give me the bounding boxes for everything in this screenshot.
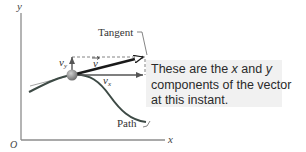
callout-line-3: at this instant. [151,93,282,109]
velocity-vector [72,57,143,75]
particle [67,70,78,81]
callout-line-1: These are the x and y [151,62,282,78]
callout-line-2: components of the vector [151,78,282,94]
tangent-leader [137,32,147,55]
x-axis-label: x [167,133,173,145]
vy-label: vy [59,56,68,70]
path-label: Path [117,117,137,129]
origin-label: O [10,139,17,150]
v-label: v [93,57,98,69]
callout-box: These are the x and y components of the … [146,60,282,107]
vx-label: vx [103,74,112,88]
tangent-label: Tangent [98,26,133,38]
y-axis-label: y [16,0,22,12]
